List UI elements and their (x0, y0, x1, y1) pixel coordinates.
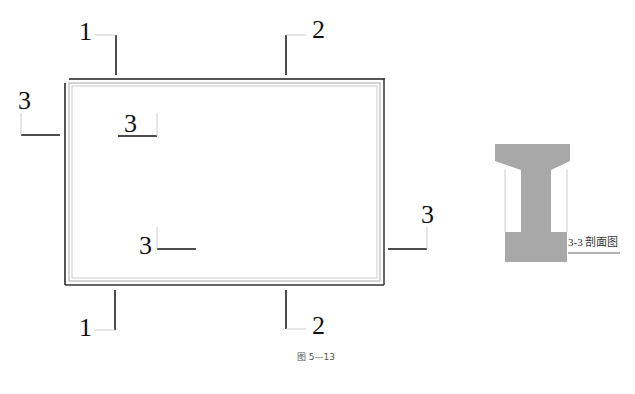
section-marker-2-bottom (286, 290, 306, 329)
section-label-1-top: 1 (79, 17, 92, 46)
section-label-2-top: 2 (312, 15, 325, 44)
section-label-2-bottom: 2 (312, 311, 325, 340)
section-label-3-inner-top: 3 (124, 109, 137, 138)
section-marker-3-left (21, 113, 60, 135)
plan-outline (65, 79, 385, 285)
figure-caption: 图 5—13 (297, 352, 335, 362)
section-marker-2-top (286, 35, 306, 75)
section-label-1-bottom: 1 (79, 313, 92, 342)
section-marker-1-top (95, 35, 116, 75)
plan-diagram: 1 1 2 2 3 3 3 3 3-3 剖面图 图 (0, 0, 635, 394)
section-3-3-profile (495, 144, 570, 262)
section-marker-3-inner-bottom (157, 227, 196, 249)
section-3-3-title: 3-3 剖面图 (568, 235, 618, 248)
section-marker-3-right (388, 227, 427, 249)
section-label-3-left: 3 (18, 86, 31, 115)
section-label-3-right: 3 (421, 200, 434, 229)
section-label-3-inner-bottom: 3 (139, 231, 152, 260)
section-marker-1-bottom (94, 290, 115, 330)
